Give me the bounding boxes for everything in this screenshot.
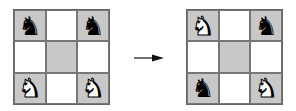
board-cell xyxy=(219,73,251,104)
board-cell xyxy=(14,41,46,72)
board-cell: ♞ xyxy=(187,10,219,41)
white-knight-icon: ♞ xyxy=(18,75,41,101)
final-board: ♞♞♞♞ xyxy=(186,9,283,105)
board-cell xyxy=(46,10,78,41)
black-knight-icon: ♞ xyxy=(18,13,41,39)
black-knight-icon: ♞ xyxy=(191,75,214,101)
board-cell: ♞ xyxy=(14,10,46,41)
white-knight-icon: ♞ xyxy=(255,75,278,101)
board-cell: ♞ xyxy=(77,73,109,104)
board-cell: ♞ xyxy=(77,10,109,41)
board-cell xyxy=(250,41,282,72)
black-knight-icon: ♞ xyxy=(82,13,105,39)
board-cell: ♞ xyxy=(250,73,282,104)
initial-board: ♞♞♞♞ xyxy=(13,9,110,105)
white-knight-icon: ♞ xyxy=(82,75,105,101)
board-cell xyxy=(187,41,219,72)
right-arrow-icon xyxy=(134,54,164,62)
board-cell xyxy=(46,73,78,104)
board-cell: ♞ xyxy=(187,73,219,104)
board-cell xyxy=(46,41,78,72)
board-cell: ♞ xyxy=(250,10,282,41)
black-knight-icon: ♞ xyxy=(255,13,278,39)
board-cell xyxy=(219,10,251,41)
board-cell: ♞ xyxy=(14,73,46,104)
board-cell xyxy=(219,41,251,72)
white-knight-icon: ♞ xyxy=(191,13,214,39)
board-cell xyxy=(77,41,109,72)
